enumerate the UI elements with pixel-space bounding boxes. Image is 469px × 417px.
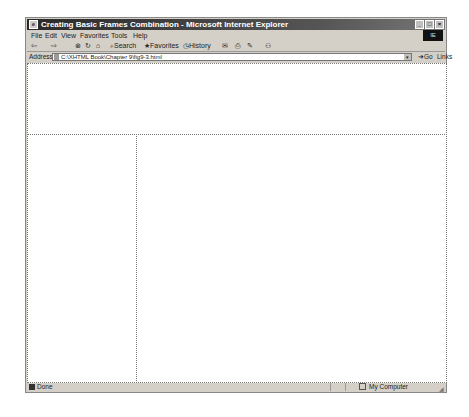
menu-view[interactable]: View	[61, 30, 76, 41]
favorites-button[interactable]: ★Favorites	[144, 41, 179, 51]
stop-button[interactable]: ⊗	[75, 41, 81, 51]
forward-button[interactable]: ⇨	[51, 41, 57, 51]
status-divider	[330, 383, 331, 391]
status-divider	[345, 383, 346, 391]
address-input[interactable]: C:\XHTML Book\Chapter 9\fig9-3.html ▾	[52, 53, 412, 61]
status-text: Done	[37, 382, 53, 392]
search-label: Search	[114, 42, 136, 49]
favorites-label: Favorites	[150, 42, 179, 49]
maximize-button[interactable]: □	[425, 20, 434, 29]
ie-throbber-icon: IE	[423, 30, 443, 41]
menu-edit[interactable]: Edit	[45, 30, 57, 41]
page-icon	[54, 54, 59, 60]
ie-icon: e	[29, 20, 38, 29]
history-button[interactable]: ◷History	[183, 41, 211, 51]
my-computer-icon	[359, 383, 366, 390]
top-frame	[27, 63, 447, 135]
mail-button[interactable]: ✉	[222, 41, 228, 51]
history-label: History	[189, 42, 211, 49]
search-button[interactable]: ⌕Search	[110, 41, 136, 51]
menu-tools[interactable]: Tools	[111, 30, 127, 41]
title-bar: e Creating Basic Frames Combination - Mi…	[27, 19, 445, 30]
minimize-button[interactable]: _	[415, 20, 424, 29]
security-zone: My Computer	[369, 382, 408, 392]
menu-bar: File Edit View Favorites Tools Help IE	[27, 30, 445, 41]
discuss-button[interactable]: ⚇	[265, 41, 271, 51]
menu-file[interactable]: File	[31, 30, 42, 41]
menu-favorites[interactable]: Favorites	[80, 30, 109, 41]
left-frame	[27, 134, 137, 383]
home-button[interactable]: ⌂	[96, 41, 100, 51]
back-button[interactable]: ⇦	[31, 41, 37, 51]
status-bar: Done My Computer ◢	[27, 382, 445, 392]
right-frame	[136, 134, 447, 383]
page-done-icon	[29, 384, 35, 390]
address-label: Address	[29, 51, 53, 63]
resize-grip[interactable]: ◢	[439, 384, 444, 394]
address-value: C:\XHTML Book\Chapter 9\fig9-3.html	[61, 54, 162, 60]
close-button[interactable]: ×	[435, 20, 444, 29]
menu-help[interactable]: Help	[133, 30, 147, 41]
go-button[interactable]: ➜Go	[418, 51, 433, 63]
address-dropdown-button[interactable]: ▾	[404, 54, 411, 60]
go-label: Go	[424, 53, 433, 60]
print-button[interactable]: ⎙	[235, 41, 241, 51]
browser-window: e Creating Basic Frames Combination - Mi…	[25, 17, 447, 393]
refresh-button[interactable]: ↻	[85, 41, 91, 51]
window-title: Creating Basic Frames Combination - Micr…	[41, 19, 288, 30]
edit-button[interactable]: ✎	[247, 41, 253, 51]
